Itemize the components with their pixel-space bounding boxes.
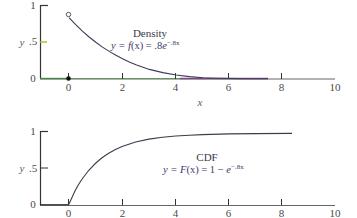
cdf-ylabel: y <box>19 162 25 174</box>
figure: 1 .5 0 y 0 2 4 6 8 10 x Density y = f(x)… <box>0 0 357 218</box>
density-equation: y = f(x) = .8e−.8x <box>110 39 180 52</box>
cdf-equation: y = F(x) = 1 − e−.8x <box>162 163 244 176</box>
cdf-title: CDF <box>196 151 217 163</box>
density-xtick-label: 6 <box>226 81 232 93</box>
cdf-xtick-label: 6 <box>226 207 232 218</box>
density-xtick-label: 0 <box>66 81 72 93</box>
density-xtick-label: 8 <box>279 81 285 93</box>
density-chart: 1 .5 0 y 0 2 4 6 8 10 x Density y = f(x)… <box>19 0 341 108</box>
density-xlabel: x <box>197 96 203 108</box>
cdf-xtick-label: 0 <box>66 207 72 218</box>
cdf-ytick-label-0: 0 <box>30 198 36 210</box>
cdf-xtick-label: 8 <box>279 207 285 218</box>
cdf-xtick-label: 2 <box>120 207 126 218</box>
density-title: Density <box>133 27 168 39</box>
density-ytick-label-1: 1 <box>30 0 36 11</box>
density-ytick-label-half: .5 <box>29 35 38 47</box>
density-xtick-label: 10 <box>330 81 342 93</box>
cdf-ytick-label-1: 1 <box>30 125 36 137</box>
open-circle-marker <box>66 12 70 16</box>
density-ylabel: y <box>19 36 25 48</box>
cdf-xticks <box>69 199 282 205</box>
density-xtick-label: 2 <box>120 81 126 93</box>
cdf-chart: 1 .5 0 y 0 2 4 6 8 10 CDF y = F(x) = 1 −… <box>19 125 341 218</box>
cdf-ytick-label-half: .5 <box>29 162 38 174</box>
cdf-xtick-label: 10 <box>330 207 342 218</box>
density-curve <box>69 18 268 79</box>
cdf-xtick-label: 4 <box>173 207 179 218</box>
density-xtick-label: 4 <box>173 81 179 93</box>
density-ytick-label-0: 0 <box>30 72 36 84</box>
